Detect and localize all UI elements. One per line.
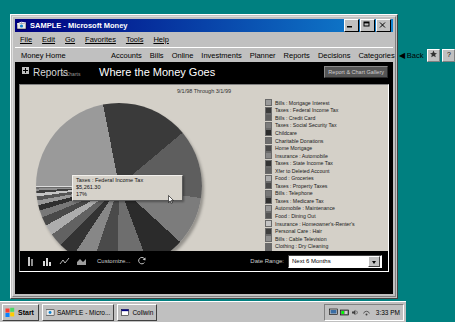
- menu-favorites-label: Favorites: [85, 35, 116, 44]
- menu-item-help[interactable]: Help: [148, 34, 173, 45]
- window-icon: [121, 308, 130, 317]
- legend-color-swatch: [265, 99, 272, 106]
- pie-chart-area: Taxes : Federal Income Tax $5,261.30 17%: [26, 99, 216, 272]
- legend-item[interactable]: Xfer to Deleted Account: [262, 167, 386, 175]
- legend-item-label: Home Mortgage: [275, 145, 312, 151]
- help-icon[interactable]: ?: [442, 49, 455, 62]
- tooltip-amount: $5,261.30: [76, 184, 180, 191]
- application-window: SAMPLE - Microsoft Money File Edit Go Fa: [10, 14, 398, 299]
- date-range-value: Next 6 Months: [289, 258, 368, 264]
- legend-color-swatch: [265, 197, 272, 204]
- tooltip-percent: 17%: [76, 191, 180, 198]
- legend-item[interactable]: Insurance : Homeowner's-Renter's: [262, 220, 386, 228]
- legend-item[interactable]: Taxes : State Income Tax: [262, 159, 386, 167]
- legend-color-swatch: [265, 137, 272, 144]
- menu-item-tools[interactable]: Tools: [121, 34, 149, 45]
- legend-item[interactable]: Charitable Donations: [262, 137, 386, 145]
- legend-item[interactable]: Bills : Telephone: [262, 190, 386, 198]
- minimize-button[interactable]: [344, 19, 359, 32]
- task-button-money[interactable]: SAMPLE - Micro...: [42, 304, 114, 321]
- menu-edit-label: Edit: [42, 35, 55, 44]
- nav-item-bills[interactable]: Bills: [146, 51, 168, 60]
- chart-date-caption: 9/1/98 Through 3/1/99: [20, 88, 388, 94]
- favorites-icon[interactable]: [427, 49, 440, 62]
- task-label-collwin: Collwin: [132, 309, 153, 316]
- money-app-icon: [46, 308, 55, 317]
- legend-item-label: Taxes : Property Taxes: [275, 183, 327, 189]
- network-icon[interactable]: [340, 308, 349, 317]
- legend-item[interactable]: Taxes : Medicare Tax: [262, 197, 386, 205]
- legend-item[interactable]: Food : Dining Out: [262, 212, 386, 220]
- nav-item-decisions[interactable]: Decisions: [314, 51, 355, 60]
- nav-item-online[interactable]: Online: [168, 51, 198, 60]
- mouse-cursor: [168, 195, 174, 204]
- modem-icon[interactable]: [362, 308, 371, 317]
- charts-section-sublabel: & Charts: [61, 71, 80, 77]
- menu-item-favorites[interactable]: Favorites: [80, 34, 121, 45]
- legend-color-swatch: [265, 205, 272, 212]
- money-app-icon: [17, 21, 27, 31]
- legend-item-label: Personal Care : Hair: [275, 228, 322, 234]
- legend-item-label: Bills : Cable Television: [275, 236, 327, 242]
- restore-button[interactable]: [360, 19, 375, 32]
- legend-color-swatch: [265, 129, 272, 136]
- legend-item-label: Childcare: [275, 130, 297, 136]
- report-chart-gallery-button[interactable]: Report & Chart Gallery: [324, 66, 388, 78]
- expand-icon[interactable]: [21, 66, 30, 75]
- start-button[interactable]: Start: [2, 304, 39, 321]
- task-label-money: SAMPLE - Micro...: [57, 309, 110, 316]
- menu-item-edit[interactable]: Edit: [37, 34, 60, 45]
- menu-item-file[interactable]: File: [15, 34, 37, 45]
- title-bar[interactable]: SAMPLE - Microsoft Money: [15, 19, 393, 32]
- bar-chart-icon[interactable]: [42, 256, 54, 267]
- legend-item-label: Clothing : Dry Cleaning: [275, 243, 328, 249]
- legend-item[interactable]: Taxes : Property Taxes: [262, 182, 386, 190]
- system-tray: 3:33 PM: [324, 304, 404, 321]
- nav-item-accounts[interactable]: Accounts: [107, 51, 146, 60]
- legend-item[interactable]: Clothing : Dry Cleaning: [262, 242, 386, 250]
- legend-item[interactable]: Automobile : Maintenance: [262, 205, 386, 213]
- nav-item-investments[interactable]: Investments: [197, 51, 245, 60]
- taskbar-clock: 3:33 PM: [376, 309, 400, 316]
- window-inner-frame: SAMPLE - Microsoft Money File Edit Go Fa: [12, 16, 396, 297]
- legend-item[interactable]: Insurance : Automobile: [262, 152, 386, 160]
- legend-item[interactable]: Bills : Mortgage Interest: [262, 99, 386, 107]
- menu-item-go[interactable]: Go: [60, 34, 80, 45]
- taskbar: Start SAMPLE - Micro... Collwin: [0, 301, 406, 322]
- windows-logo-icon: [5, 307, 16, 318]
- legend-item-label: Bills : Telephone: [275, 190, 313, 196]
- legend-item[interactable]: Food : Groceries: [262, 174, 386, 182]
- chevron-down-icon[interactable]: [368, 256, 380, 267]
- legend-item[interactable]: Bills : Credit Card: [262, 114, 386, 122]
- back-button[interactable]: ◀ Back: [399, 51, 428, 60]
- chart-toolbar: Customize... Date Range: Next 6 Months: [20, 251, 388, 271]
- legend-item[interactable]: Taxes : Federal Income Tax: [262, 107, 386, 115]
- legend-item-label: Taxes : Social Security Tax: [275, 122, 337, 128]
- date-range-dropdown[interactable]: Next 6 Months: [288, 255, 382, 268]
- start-label: Start: [18, 309, 34, 316]
- refresh-icon[interactable]: [137, 256, 147, 266]
- line-chart-icon[interactable]: [59, 256, 71, 267]
- legend-item[interactable]: Personal Care : Hair: [262, 227, 386, 235]
- nav-item-planner[interactable]: Planner: [246, 51, 280, 60]
- legend-item-label: Insurance : Homeowner's-Renter's: [275, 221, 355, 227]
- area-chart-icon[interactable]: [76, 256, 88, 267]
- task-button-collwin[interactable]: Collwin: [117, 304, 157, 321]
- nav-money-home[interactable]: Money Home: [15, 51, 107, 60]
- nav-item-categories[interactable]: Categories: [354, 51, 398, 60]
- pie-chart-icon[interactable]: [25, 256, 37, 267]
- legend-item[interactable]: Childcare: [262, 129, 386, 137]
- legend-item[interactable]: Taxes : Social Security Tax: [262, 122, 386, 130]
- display-icon[interactable]: [329, 308, 338, 317]
- volume-icon[interactable]: [351, 308, 360, 317]
- reports-section-tab[interactable]: Reports & Charts: [15, 66, 99, 78]
- nav-item-reports[interactable]: Reports: [280, 51, 314, 60]
- legend-color-swatch: [265, 160, 272, 167]
- legend-item-label: Insurance : Automobile: [275, 153, 328, 159]
- legend-item[interactable]: Home Mortgage: [262, 144, 386, 152]
- customize-button[interactable]: Customize...: [97, 258, 130, 264]
- report-content-area: Reports & Charts Where the Money Goes Re…: [15, 62, 393, 294]
- legend-item[interactable]: Bills : Cable Television: [262, 235, 386, 243]
- close-button[interactable]: [376, 19, 391, 32]
- menu-help-label: Help: [153, 35, 168, 44]
